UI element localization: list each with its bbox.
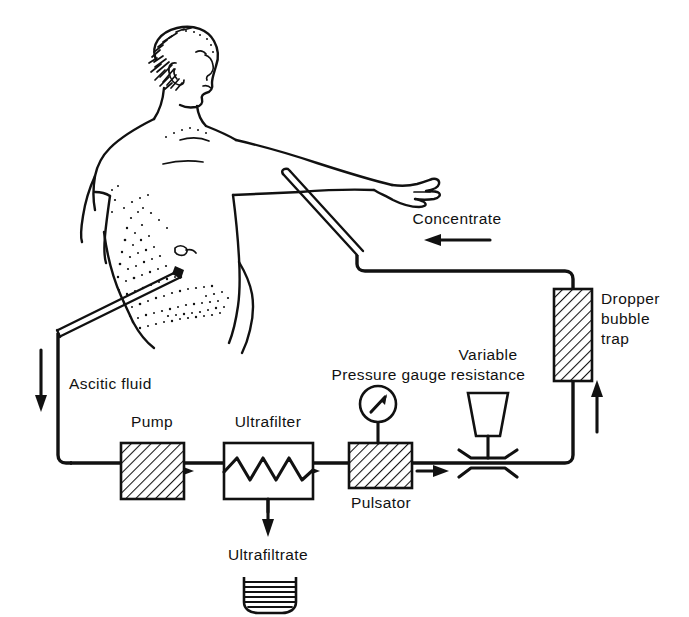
patient-hair-speckle [185, 30, 214, 53]
patient-neck-back [154, 88, 164, 119]
patient-neck-front [197, 106, 206, 126]
patient-collarbone [180, 138, 209, 141]
patient-right-waist [239, 262, 253, 353]
label-dropper-line2: bubble [601, 310, 650, 327]
dropper-bubble-trap-component [554, 289, 592, 381]
variable-resistance-knob [468, 393, 508, 436]
tube-left-vertical [58, 333, 72, 463]
label-variable-line2: resistance [451, 366, 526, 383]
pump-box [121, 443, 184, 499]
label-variable-line1: Variable [459, 346, 518, 363]
patient-belly-outline [133, 322, 154, 348]
label-pulsator: Pulsator [351, 494, 411, 511]
label-ascitic-fluid: Ascitic fluid [69, 375, 152, 392]
label-pump: Pump [131, 413, 173, 430]
patient-torso-right-outline [206, 126, 236, 140]
patient-figure [81, 27, 440, 353]
arrow-pulsator-out [417, 465, 449, 477]
patient-chest-line [163, 161, 203, 164]
dropper-bubble-trap-box [554, 289, 592, 381]
label-dropper-line3: trap [601, 330, 629, 347]
patient-right-arm-top [236, 140, 392, 185]
pulsator-box [349, 443, 412, 488]
tube-return-line [357, 255, 573, 290]
ultrafilter-component [224, 443, 313, 512]
ultrafilter-box [224, 443, 313, 499]
patient-armpit-left [95, 192, 110, 196]
patient-navel [175, 246, 187, 256]
arrow-concentrate [424, 234, 490, 246]
abdominal-cannula [57, 266, 184, 337]
patient-right-arm-bottom [233, 190, 374, 195]
pump-component [121, 443, 184, 499]
ultrafiltrate-beaker [244, 577, 296, 613]
pressure-gauge-component [360, 386, 396, 443]
patient-eyebrow [196, 51, 206, 54]
arrow-trap-up [591, 380, 603, 432]
patient-torso-left-outline [94, 119, 155, 210]
arm-cannula [282, 169, 363, 255]
ascites-circuit-diagram: Concentrate Dropper bubble trap Variable… [0, 0, 689, 617]
label-concentrate: Concentrate [413, 210, 502, 227]
diagram-canvas: Concentrate Dropper bubble trap Variable… [0, 0, 689, 617]
label-ultrafiltrate: Ultrafiltrate [228, 546, 308, 563]
variable-resistance-lower-jaw [459, 468, 517, 477]
label-dropper-line1: Dropper [601, 290, 660, 307]
arrow-ascitic-down [35, 350, 47, 412]
label-ultrafilter: Ultrafilter [235, 413, 301, 430]
abdomen-stipple [111, 127, 229, 329]
patient-mouth [203, 86, 211, 88]
label-pressure-gauge: Pressure gauge [331, 366, 446, 383]
pulsator-component [349, 443, 412, 488]
patient-right-flank [229, 195, 240, 343]
